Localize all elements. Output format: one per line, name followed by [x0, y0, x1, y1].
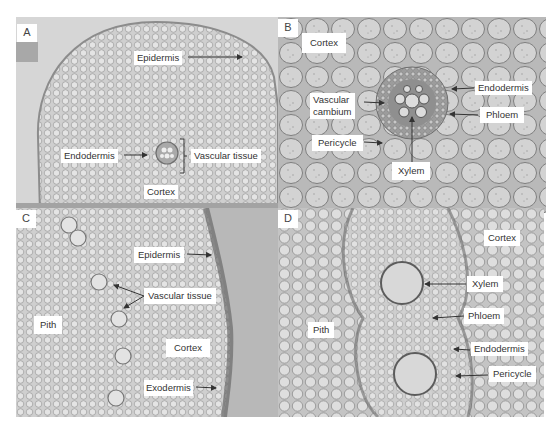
- label-endodermis: Endodermis: [471, 342, 528, 356]
- label-pericycle: Pericycle: [489, 366, 536, 382]
- label-endodermis: Endodermis: [61, 149, 118, 163]
- panel-a: A Epidermis Endodermis Vascular tissue C…: [16, 17, 278, 213]
- label-phloem: Phloem: [480, 107, 524, 123]
- label-cortex: Cortex: [144, 185, 178, 199]
- panel-label-a: A: [17, 24, 37, 42]
- panel-label-c: C: [16, 210, 36, 228]
- label-pith: Pith: [34, 316, 62, 334]
- label-endodermis: Endodermis: [475, 81, 532, 95]
- panel-label-d: D: [278, 210, 298, 228]
- label-xylem: Xylem: [467, 276, 503, 292]
- label-pericycle: Pericycle: [312, 135, 363, 151]
- label-vascular-tissue: Vascular tissue: [191, 149, 261, 163]
- panel-b: B Cortex Endodermis Vascular cambium Phl…: [278, 17, 546, 213]
- label-cortex: Cortex: [166, 339, 210, 357]
- label-vascular-cambium-line1: Vascular: [313, 94, 352, 106]
- label-cortex: Cortex: [484, 230, 520, 246]
- panel-d: D Cortex Xylem Phloem Pith Endodermis Pe…: [278, 208, 544, 417]
- panel-label-b: B: [278, 19, 298, 37]
- label-phloem: Phloem: [464, 308, 504, 324]
- label-cortex: Cortex: [302, 33, 346, 53]
- label-epidermis: Epidermis: [134, 247, 184, 263]
- label-vascular-cambium-line2: cambium: [313, 106, 352, 118]
- label-vascular-cambium: Vascular cambium: [310, 93, 355, 119]
- panel-c: C Epidermis Vascular tissue Pith Cortex …: [16, 208, 278, 417]
- label-xylem: Xylem: [392, 162, 430, 180]
- label-epidermis: Epidermis: [134, 51, 182, 65]
- label-vascular-tissue: Vascular tissue: [144, 288, 216, 304]
- micrograph-a: [16, 17, 278, 213]
- label-exodermis: Exodermis: [144, 380, 193, 396]
- label-pith: Pith: [308, 322, 334, 338]
